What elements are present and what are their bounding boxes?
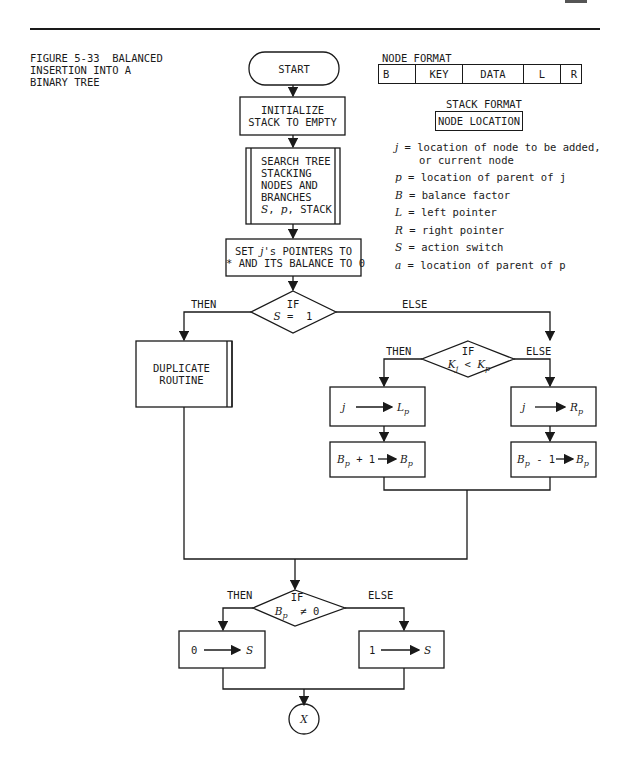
decision3-then: THEN bbox=[227, 589, 252, 601]
dec-balance-from: Bp - 1 bbox=[517, 453, 555, 470]
decision1-else: ELSE bbox=[402, 298, 427, 310]
init-label: INITIALIZE STACK TO EMPTY bbox=[240, 104, 345, 128]
set-s1-to: S bbox=[424, 644, 431, 656]
inc-balance-to: Bp bbox=[400, 453, 413, 470]
set-s1-from: 1 bbox=[369, 644, 375, 656]
decision1-cond: S = 1 bbox=[268, 310, 318, 322]
decision3-else: ELSE bbox=[368, 589, 393, 601]
duplicate-label: DUPLICATE ROUTINE bbox=[136, 362, 227, 386]
decision2-then: THEN bbox=[386, 345, 411, 357]
decision2-cond: Kj < Kp bbox=[438, 358, 500, 375]
dec-balance-to: Bp bbox=[576, 453, 589, 470]
decision1-then: THEN bbox=[191, 298, 216, 310]
start-label: START bbox=[249, 63, 339, 75]
assign-left-to: Lp bbox=[397, 401, 409, 418]
assign-right-to: Rp bbox=[570, 401, 583, 418]
search-label: SEARCH TREE STACKING NODES AND BRANCHES … bbox=[261, 155, 332, 215]
decision2-if: IF bbox=[448, 345, 488, 357]
decision3-if: IF bbox=[282, 591, 312, 603]
inc-balance-from: Bp + 1 bbox=[337, 453, 375, 470]
decision2-else: ELSE bbox=[526, 345, 551, 357]
set-s0-from: 0 bbox=[191, 644, 197, 656]
assign-left-from: j bbox=[342, 401, 345, 413]
set-pointers-label: SET j's POINTERS TO * AND ITS BALANCE TO… bbox=[226, 245, 361, 269]
set-s0-to: S bbox=[246, 644, 253, 656]
assign-right-from: j bbox=[522, 401, 525, 413]
connector-x: X bbox=[289, 713, 319, 725]
decision3-cond: Bp ≠ 0 bbox=[272, 605, 322, 622]
decision1-if: IF bbox=[273, 298, 313, 310]
